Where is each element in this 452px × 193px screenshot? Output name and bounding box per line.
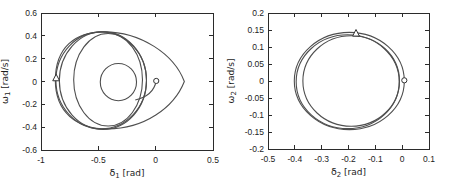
y-tick-label: 0.2 <box>252 8 264 18</box>
y-tick-label: -0.4 <box>22 122 37 132</box>
phase-portrait-figure: -1-0.500.50.60.40.20-0.2-0.4-0.6δ1 [rad]… <box>0 0 452 193</box>
y-tick-label: 0.2 <box>25 54 37 64</box>
y-tick-label: -0.15 <box>245 127 265 137</box>
trajectory-loop <box>56 32 147 129</box>
left-plot-panel: -1-0.500.50.60.40.20-0.2-0.4-0.6δ1 [rad]… <box>0 0 226 193</box>
right-plot-svg: -0.5-0.4-0.3-0.2-0.100.10.20.150.10.050-… <box>226 0 452 193</box>
y-tick-label: -0.6 <box>22 145 37 155</box>
y-tick-label: 0.15 <box>247 25 264 35</box>
x-tick-label: -0.3 <box>314 154 329 164</box>
right-plot-panel: -0.5-0.4-0.3-0.2-0.100.10.20.150.10.050-… <box>226 0 452 193</box>
x-tick-label: -0.2 <box>341 154 356 164</box>
x-tick-label: 0.5 <box>207 155 219 165</box>
x-tick-label: 0 <box>400 154 405 164</box>
end-marker-triangle <box>53 74 60 81</box>
left-plot-svg: -1-0.500.50.60.40.20-0.2-0.4-0.6δ1 [rad]… <box>0 0 226 193</box>
y-tick-label: 0.6 <box>25 8 37 18</box>
x-axis-label: δ1 [rad] <box>109 167 144 180</box>
y-tick-label: -0.1 <box>249 110 264 120</box>
x-tick-label: -1 <box>37 155 45 165</box>
y-tick-label: 0 <box>259 76 264 86</box>
trajectory-loop <box>303 36 400 126</box>
y-tick-label: -0.05 <box>245 93 265 103</box>
start-marker-circle <box>154 78 159 83</box>
trajectory-outer-orbit <box>55 32 184 129</box>
x-tick-label: -0.4 <box>288 154 303 164</box>
start-marker-circle <box>402 78 407 83</box>
trajectory-loop <box>59 32 146 130</box>
trajectory-loop <box>74 34 143 126</box>
y-tick-label: 0.4 <box>25 31 37 41</box>
y-tick-label: 0.1 <box>252 42 264 52</box>
x-tick-label: 0.1 <box>423 154 435 164</box>
x-tick-label: -0.5 <box>91 155 106 165</box>
x-axis-label: δ2 [rad] <box>331 166 366 179</box>
y-axis-label: ω1 [rad/s] <box>0 59 12 104</box>
y-tick-label: -0.2 <box>249 144 264 154</box>
x-tick-label: -0.1 <box>368 154 383 164</box>
axes-box <box>41 13 213 150</box>
y-axis-label: ω2 [rad/s] <box>226 59 238 104</box>
y-tick-label: 0 <box>32 77 37 87</box>
x-tick-label: 0 <box>153 155 158 165</box>
trajectory-loop <box>100 63 136 100</box>
y-tick-label: -0.2 <box>22 99 37 109</box>
x-tick-label: -0.5 <box>261 154 276 164</box>
y-tick-label: 0.05 <box>247 59 264 69</box>
